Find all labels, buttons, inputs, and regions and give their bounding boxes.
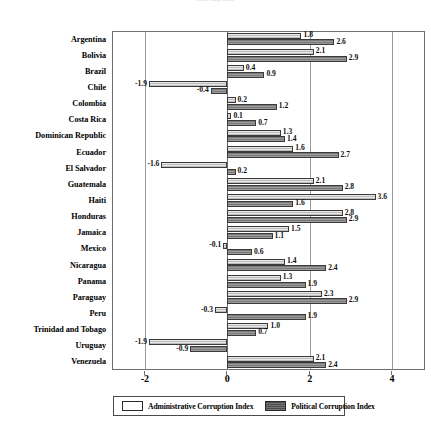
bar-value-label: 2.6 [336, 38, 346, 46]
bar-political [227, 169, 235, 175]
bar-admin [161, 162, 227, 168]
category-label: Uruguay [75, 341, 106, 350]
bar-value-label: 1.8 [303, 31, 313, 39]
x-axis: -2024 [112, 371, 425, 387]
bar-political [227, 56, 346, 62]
bar-admin [227, 33, 301, 39]
bar-value-label: 1.0 [271, 322, 281, 330]
bar-value-label: 0.7 [258, 119, 268, 127]
category-label: Trinidad and Tobago [33, 325, 106, 334]
bar-value-label: 0.1 [233, 112, 243, 120]
bar-value-label: 2.1 [316, 354, 326, 362]
category-label: Costa Rica [69, 115, 106, 124]
category-label: Chile [88, 83, 106, 92]
chart-legend: Administrative Corruption Index Politica… [113, 396, 345, 416]
bar-political [227, 298, 346, 304]
bar-value-label: 2.9 [349, 215, 359, 223]
category-label: Colombia [72, 99, 106, 108]
bar-political [211, 88, 227, 94]
bar-value-label: 1.4 [287, 257, 297, 265]
bar-value-label: -0.1 [209, 241, 221, 249]
bar-political [227, 249, 252, 255]
bar-value-label: 1.6 [295, 144, 305, 152]
bar-value-label: 1.9 [308, 312, 318, 320]
bar-admin [227, 130, 281, 136]
bar-value-label: -1.9 [135, 338, 147, 346]
bar-political [227, 314, 305, 320]
bar-political [227, 72, 264, 78]
bar-admin [149, 81, 227, 87]
x-tick-mark [226, 371, 227, 375]
bar-value-label: 1.1 [275, 232, 285, 240]
bar-value-label: -0.4 [197, 86, 209, 94]
bar-political [227, 362, 326, 368]
legend-label-administrative: Administrative Corruption Index [148, 402, 253, 411]
bar-value-label: 1.3 [283, 273, 293, 281]
bar-value-label: 1.9 [308, 280, 318, 288]
bar-political [227, 120, 256, 126]
category-label: Honduras [71, 212, 106, 221]
category-label: Jamaica [77, 228, 106, 237]
category-label: Bolivia [82, 51, 106, 60]
bar-value-label: 2.9 [349, 296, 359, 304]
bar-value-label: 1.6 [295, 199, 305, 207]
bar-political [227, 233, 272, 239]
bar-political [227, 330, 256, 336]
bar-admin [227, 49, 313, 55]
category-label: Haiti [89, 196, 107, 205]
category-label: Peru [89, 309, 106, 318]
category-label: Paraguay [73, 293, 106, 302]
bar-admin [227, 65, 243, 71]
bar-value-label: 0.6 [254, 248, 264, 256]
legend-swatch-political-icon [265, 401, 286, 411]
bar-political [227, 217, 346, 223]
bar-political [227, 282, 305, 288]
bar-political [227, 39, 334, 45]
category-label: Nicaragua [70, 261, 106, 270]
bar-value-label: 2.3 [324, 290, 334, 298]
bar-value-label: 0.2 [238, 167, 248, 175]
bar-value-label: -1.9 [135, 80, 147, 88]
legend-label-political: Political Corruption Index [291, 402, 374, 411]
bar-political [190, 346, 227, 352]
bar-value-label: -0.3 [201, 306, 213, 314]
bar-value-label: 2.8 [345, 183, 355, 191]
category-label: Ecuador [76, 148, 106, 157]
category-label: Mexico [81, 244, 106, 253]
bar-value-label: 0.9 [266, 70, 276, 78]
x-tick-mark [391, 371, 392, 375]
category-label: Brazil [85, 67, 106, 76]
bar-value-label: 2.4 [328, 361, 338, 369]
bar-admin [227, 210, 342, 216]
bar-value-label: -1.6 [147, 160, 159, 168]
bars-layer: 1.82.62.12.90.40.9-1.9-0.40.21.20.10.71.… [112, 31, 425, 370]
chart-title: Corruption [0, 0, 431, 2]
bar-value-label: 0.2 [238, 96, 248, 104]
bar-political [227, 152, 338, 158]
bar-value-label: 2.4 [328, 264, 338, 272]
category-label: El Salvador [65, 164, 106, 173]
bar-political [227, 104, 276, 110]
bar-value-label: 0.4 [246, 64, 256, 72]
bar-value-label: 0.7 [258, 328, 268, 336]
category-axis-labels: ArgentinaBoliviaBrazilChileColombiaCosta… [0, 31, 109, 370]
bar-value-label: 2.7 [341, 151, 351, 159]
bar-value-label: -0.9 [176, 345, 188, 353]
bar-value-label: 1.4 [287, 135, 297, 143]
category-label: Panama [78, 277, 106, 286]
x-tick-label: -2 [141, 373, 149, 384]
bar-admin [227, 259, 285, 265]
category-label: Argentina [71, 35, 106, 44]
bar-value-label: 2.9 [349, 54, 359, 62]
x-tick-mark [144, 371, 145, 375]
bar-admin [223, 243, 227, 249]
corruption-index-chart: Corruption ArgentinaBoliviaBrazilChileCo… [0, 0, 431, 433]
bar-admin [227, 97, 235, 103]
bar-admin [227, 275, 281, 281]
bar-value-label: 3.6 [378, 193, 388, 201]
bar-admin [227, 178, 313, 184]
x-tick-mark [309, 371, 310, 375]
bar-admin [215, 307, 227, 313]
bar-admin [227, 146, 293, 152]
bar-admin [227, 291, 322, 297]
